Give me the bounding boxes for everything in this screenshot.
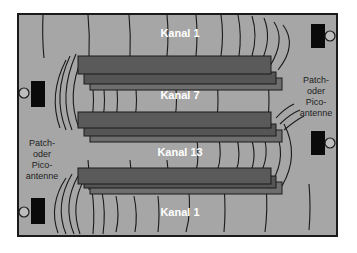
channel-label-1: Kanal 1 <box>120 27 240 39</box>
antenna-label-left: Patch- oder Pico- antenne <box>22 138 62 182</box>
antenna-label-right: Patch- oder Pico- antenne <box>296 75 336 119</box>
antenna-label-left-line-2: oder <box>22 149 62 160</box>
antenna-label-left-line-1: Patch- <box>22 138 62 149</box>
channel-label-1-bottom: Kanal 1 <box>120 206 240 218</box>
channel-label-7: Kanal 7 <box>120 89 240 101</box>
antenna-label-right-line-3: Pico- <box>296 97 336 108</box>
antenna-label-right-line-1: Patch- <box>296 75 336 86</box>
antenna-label-right-line-4: antenne <box>296 108 336 119</box>
warehouse-wlan-diagram: Kanal 1 Kanal 7 Kanal 13 Kanal 1 Patch- … <box>0 0 357 253</box>
antenna-label-left-line-3: Pico- <box>22 160 62 171</box>
antenna-label-left-line-4: antenne <box>22 171 62 182</box>
channel-label-13: Kanal 13 <box>120 146 240 158</box>
shelf-row-3 <box>78 168 282 194</box>
shelf-row-2 <box>78 112 282 142</box>
shelf-row-1 <box>78 56 282 90</box>
antenna-label-right-line-2: oder <box>296 86 336 97</box>
